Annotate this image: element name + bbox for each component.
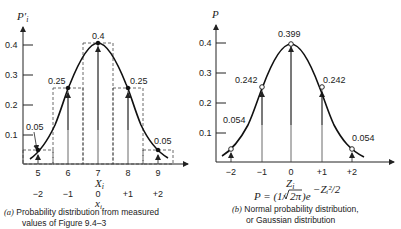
- caption-a-prefix: (a): [4, 207, 14, 217]
- svg-text:5: 5: [35, 168, 40, 178]
- caption-b: (b) Normal probability distribution, or …: [232, 204, 359, 226]
- x-gridlines: [262, 45, 322, 162]
- svg-text:6: 6: [65, 168, 70, 178]
- y-tick-label: 0.2: [199, 98, 212, 108]
- figure-canvas: 0.4 0.3 0.2 0.1 P′i: [0, 0, 401, 229]
- caption-a-line1: Probability distribution from measured: [16, 207, 159, 217]
- y-tick-label: 0.1: [199, 128, 212, 138]
- svg-text:0: 0: [288, 167, 293, 177]
- svg-text:−1: −1: [63, 189, 73, 199]
- chart-a: 0.4 0.3 0.2 0.1 P′i: [5, 10, 188, 211]
- svg-text:−1: −1: [257, 167, 267, 177]
- caption-b-line1: Normal probability distribution,: [244, 204, 358, 214]
- y-tick-label: 0.4: [5, 40, 18, 50]
- y-tick-label: 0.2: [5, 100, 18, 110]
- point-label: 0.242: [323, 75, 346, 85]
- caption-a-line2: values of Figure 9.4–3: [4, 218, 106, 228]
- svg-text:−2: −2: [33, 189, 43, 199]
- x-tick-labels: −2 −1 0 +1 +2: [226, 167, 357, 177]
- caption-b-prefix: (b): [232, 204, 242, 214]
- fitted-curve: [30, 43, 168, 159]
- y-tick-label: 0.3: [5, 70, 18, 80]
- y-tick-label: 0.1: [5, 130, 18, 140]
- point-label: 0.05: [26, 122, 44, 132]
- caption-b-line2: or Gaussian distribution: [232, 215, 335, 225]
- point-label: 0.25: [130, 76, 148, 86]
- value-arrows: [34, 47, 158, 164]
- x-axis-label: Zi: [286, 177, 294, 191]
- chart-b: 0.4 0.3 0.2 0.1 P 0.054 0.242: [199, 8, 394, 203]
- y-ticks: 0.4 0.3 0.2 0.1: [199, 38, 226, 138]
- svg-text:+2: +2: [153, 189, 163, 199]
- value-arrows: [231, 47, 352, 162]
- svg-text:9: 9: [155, 168, 160, 178]
- svg-text:8: 8: [125, 168, 130, 178]
- y-tick-label: 0.4: [199, 38, 212, 48]
- y-axis-label: P: [211, 8, 219, 20]
- gaussian-formula: P = (1/ 2π )e −Zᵢ²/2: [253, 183, 341, 203]
- point-label: 0.242: [235, 75, 258, 85]
- point-label: 0.054: [223, 115, 246, 125]
- svg-text:+1: +1: [123, 189, 133, 199]
- svg-text:−Zᵢ²/2: −Zᵢ²/2: [313, 183, 341, 195]
- svg-text:+2: +2: [347, 167, 357, 177]
- caption-a: (a) Probability distribution from measur…: [4, 207, 159, 229]
- data-points: [229, 42, 355, 152]
- point-label: 0.25: [48, 76, 66, 86]
- gaussian-curve: [222, 44, 364, 157]
- point-label: 0.4: [92, 31, 105, 41]
- point-label: 0.399: [278, 29, 301, 39]
- svg-text:2π: 2π: [290, 190, 302, 202]
- svg-text:+1: +1: [317, 167, 327, 177]
- point-label: 0.054: [352, 133, 375, 143]
- y-axis-label: P′i: [16, 10, 28, 24]
- svg-text:)e: )e: [301, 190, 311, 203]
- y-tick-label: 0.3: [199, 68, 212, 78]
- svg-text:−2: −2: [226, 167, 236, 177]
- point-label: 0.05: [154, 136, 172, 146]
- svg-text:P = (1/: P = (1/: [253, 190, 287, 203]
